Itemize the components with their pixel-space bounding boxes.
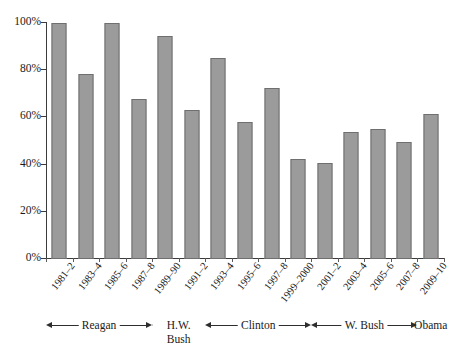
era-label: H.W. Bush [153,318,205,346]
bar[interactable] [397,142,412,259]
x-axis-category-label: 1989–90 [153,261,184,296]
x-axis-category-label: 2003–4 [342,261,370,292]
y-axis-tick-label: 20% [1,205,41,217]
bar-slot [364,22,391,259]
y-axis-tick-label: 80% [1,63,41,75]
x-axis-category-labels: 1981–21983–41985–61987–81989–901991–2199… [46,259,444,319]
bar-slot [126,22,153,259]
bar[interactable] [131,99,146,259]
bar[interactable] [158,36,173,259]
bar[interactable] [317,163,332,259]
bar-slot [285,22,312,259]
bar[interactable] [291,159,306,259]
bar-slot [46,22,73,259]
bar-slot [152,22,179,259]
era-label: Clinton [238,318,279,332]
bar-slot [311,22,338,259]
bar[interactable] [52,23,67,259]
bar[interactable] [237,122,252,259]
x-axis-category-label: 1995–6 [236,261,264,292]
x-axis-category-label: 2009–10 [418,261,449,296]
y-axis-labels: 0%20%40%60%80%100% [0,0,41,348]
chart-figure: 0%20%40%60%80%100% 1981–21983–41985–6198… [0,0,461,348]
bar-slot [73,22,100,259]
bar-slot [391,22,418,259]
era-bracket: Clinton [205,318,311,344]
bar[interactable] [105,23,120,259]
bar[interactable] [423,114,438,259]
bar-series [46,22,444,259]
era-label: Obama [411,318,450,332]
bar[interactable] [78,74,93,259]
era-bracket: H.W. Bush [152,318,205,344]
y-axis-tick-label: 60% [1,110,41,122]
bar[interactable] [184,110,199,259]
x-axis-category-label: 1983–4 [76,261,104,292]
x-axis-tick [444,258,445,262]
x-axis-category-label: 2001–2 [315,261,343,292]
bar-slot [205,22,232,259]
bar-slot [99,22,126,259]
bar-slot [258,22,285,259]
president-era-brackets: ReaganH.W. BushClintonW. BushObama [46,318,444,348]
y-axis-tick-label: 40% [1,158,41,170]
era-label: W. Bush [342,318,387,332]
era-bracket: Obama [417,318,444,344]
era-bracket: Reagan [46,318,152,344]
bar-slot [179,22,206,259]
bar[interactable] [211,58,226,259]
era-bracket: W. Bush [311,318,417,344]
x-axis-category-label: 1991–2 [183,261,211,292]
x-axis-category-label: 2005–6 [368,261,396,292]
y-axis-tick-label: 100% [1,16,41,28]
x-axis-category-label: 1993–4 [209,261,237,292]
bar-slot [232,22,259,259]
era-label: Reagan [79,318,119,332]
bar[interactable] [344,132,359,259]
x-axis-category-label: 1981–2 [50,261,78,292]
bar[interactable] [370,129,385,259]
y-axis-tick-label: 0% [1,252,41,264]
x-axis-category-label: 1985–6 [103,261,131,292]
bar[interactable] [264,88,279,259]
bar-slot [338,22,365,259]
bar-slot [417,22,444,259]
